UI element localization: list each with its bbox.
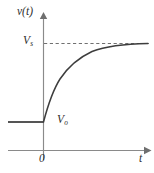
origin-label: 0	[39, 153, 45, 165]
y-axis-arrowhead	[40, 12, 47, 19]
step-response-figure: v(t) Vs Vo 0 t	[0, 0, 154, 173]
initial-value-subscript: o	[64, 118, 68, 127]
y-axis-label: v(t)	[17, 6, 33, 18]
exponential-response-curve	[44, 44, 149, 122]
x-axis-arrowhead	[144, 147, 152, 155]
initial-value-label: Vo	[57, 114, 68, 126]
steady-state-subscript: s	[30, 39, 33, 48]
x-axis-label: t	[139, 153, 142, 165]
plot-canvas	[0, 0, 154, 173]
steady-state-label: Vs	[23, 35, 33, 47]
